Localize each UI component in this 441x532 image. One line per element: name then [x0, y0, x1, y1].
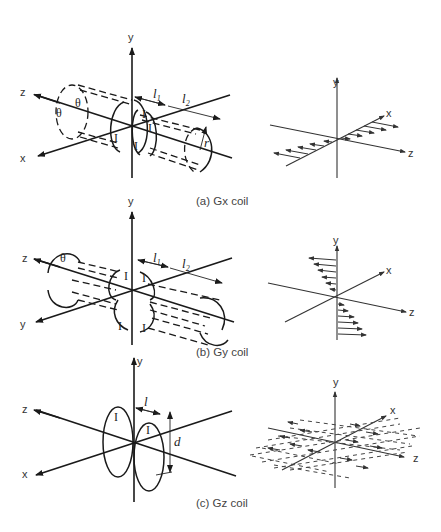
- panel-a-coil-diagram: y z x l1 l2 r θ θ I I: [20, 31, 232, 178]
- svg-text:θ: θ: [60, 251, 66, 265]
- panel-b-coil-diagram: y z y l1 l2 θ I I I I: [20, 195, 234, 345]
- caption-a: (a) Gx coil: [196, 195, 248, 207]
- caption-c: (c) Gz coil: [196, 497, 248, 509]
- svg-text:I: I: [114, 410, 118, 424]
- svg-text:z: z: [409, 306, 415, 318]
- svg-text:y: y: [20, 318, 26, 330]
- svg-text:y: y: [333, 234, 339, 246]
- svg-text:z: z: [413, 452, 419, 464]
- z-axis-label: z: [20, 86, 26, 98]
- svg-text:x: x: [386, 107, 392, 119]
- svg-text:y: y: [333, 376, 339, 388]
- svg-text:I: I: [142, 321, 146, 335]
- panel-c-field-diagram: y z x: [250, 376, 420, 488]
- svg-text:I: I: [118, 319, 122, 333]
- svg-text:z: z: [22, 252, 28, 264]
- panel-b-field-diagram: y z x: [268, 234, 415, 340]
- theta-label-1: θ: [56, 106, 62, 120]
- gz-loop-left: [103, 407, 133, 477]
- svg-text:I: I: [124, 269, 128, 283]
- svg-text:y: y: [137, 355, 143, 367]
- svg-text:x: x: [386, 264, 392, 276]
- svg-text:l1: l1: [153, 250, 161, 267]
- svg-text:x: x: [390, 404, 396, 416]
- diameter-d-label: d: [174, 434, 181, 449]
- current-label-2: I: [134, 139, 138, 153]
- current-label-1: I: [114, 131, 118, 145]
- panel-c-coil-diagram: y z x l d I I: [22, 355, 236, 502]
- current-label-3: I: [142, 107, 146, 121]
- y-axis-label: y: [128, 31, 134, 43]
- length-l1-label: l1: [153, 86, 161, 103]
- current-label-4: I: [148, 121, 152, 135]
- gradient-coils-figure: y z x l1 l2 r θ θ I I: [0, 0, 441, 532]
- svg-text:y: y: [333, 76, 339, 88]
- svg-text:y: y: [128, 195, 134, 207]
- svg-text:x: x: [22, 468, 28, 480]
- svg-text:z: z: [408, 147, 414, 159]
- svg-text:l2: l2: [182, 256, 190, 273]
- x-axis-label: x: [20, 152, 26, 164]
- svg-text:z: z: [22, 403, 28, 415]
- svg-text:I: I: [142, 271, 146, 285]
- separation-l-label: l: [144, 394, 148, 409]
- caption-b: (b) Gy coil: [196, 346, 248, 358]
- panel-a-field-diagram: y z x: [270, 76, 414, 178]
- field-x-axis: [286, 116, 384, 166]
- length-l2-label: l2: [182, 91, 190, 108]
- svg-text:I: I: [146, 423, 150, 437]
- theta-label-2: θ: [75, 96, 81, 110]
